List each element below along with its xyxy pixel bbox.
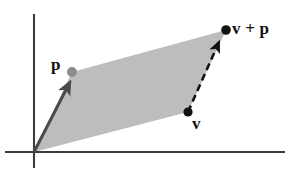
label-v: v xyxy=(192,115,201,132)
label-v-plus-p: v + p xyxy=(232,20,269,37)
point-p-marker xyxy=(67,67,77,77)
label-p: p xyxy=(51,56,61,73)
vector-addition-figure: p v v + p xyxy=(0,0,293,179)
point-v-plus-p-marker xyxy=(221,25,231,35)
parallelogram-region xyxy=(34,30,226,152)
